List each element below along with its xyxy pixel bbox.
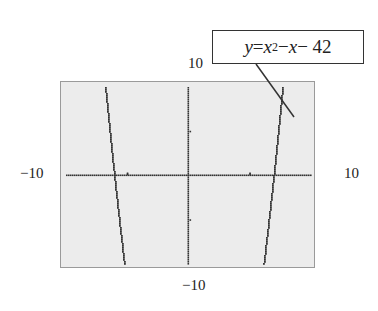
graph-plot — [61, 82, 316, 269]
eq-minus: − — [278, 36, 289, 58]
ymax-label: 10 — [188, 56, 203, 71]
equation-callout: y = x2 − x − 42 — [212, 30, 364, 64]
eq-x: x — [264, 36, 272, 58]
xmin-label: −10 — [20, 166, 43, 181]
eq-constant: − 42 — [297, 36, 331, 58]
calculator-graph-screen — [60, 81, 315, 268]
eq-y: y — [244, 36, 252, 58]
xmax-label: 10 — [344, 166, 359, 181]
eq-x2: x — [289, 36, 297, 58]
ymin-label: −10 — [182, 278, 205, 293]
eq-equals: = — [253, 36, 264, 58]
